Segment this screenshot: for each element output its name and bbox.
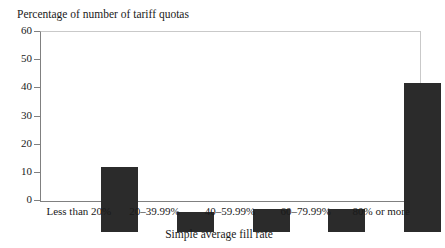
chart-title: Percentage of number of tariff quotas	[17, 8, 189, 21]
y-axis-label-wrap: 0	[0, 194, 32, 205]
x-axis-label: 20–39.99%	[117, 205, 193, 217]
y-axis-label-wrap: 20	[0, 138, 32, 149]
y-axis-label: 0	[6, 194, 32, 205]
y-axis-label-wrap: 40	[0, 81, 32, 92]
y-axis-label: 20	[6, 138, 32, 149]
bar	[101, 167, 138, 232]
x-axis-label: 40–59.99%	[192, 205, 268, 217]
x-axis-label: 60–79.99%	[268, 205, 344, 217]
x-axis-label: 80% or more	[343, 205, 419, 217]
y-axis-label: 10	[6, 166, 32, 177]
y-axis-label-wrap: 60	[0, 25, 32, 36]
y-axis-label-wrap: 10	[0, 166, 32, 177]
y-axis-label-wrap: 50	[0, 53, 32, 64]
plot-area	[40, 31, 421, 202]
y-axis-label: 40	[6, 81, 32, 92]
y-axis-label: 50	[6, 53, 32, 64]
y-axis-label: 30	[6, 110, 32, 121]
x-axis-label: Less than 20%	[41, 205, 117, 217]
y-axis-label-wrap: 30	[0, 110, 32, 121]
y-axis-label: 60	[6, 25, 32, 36]
x-axis-title: Simple average fill rate	[0, 228, 438, 241]
